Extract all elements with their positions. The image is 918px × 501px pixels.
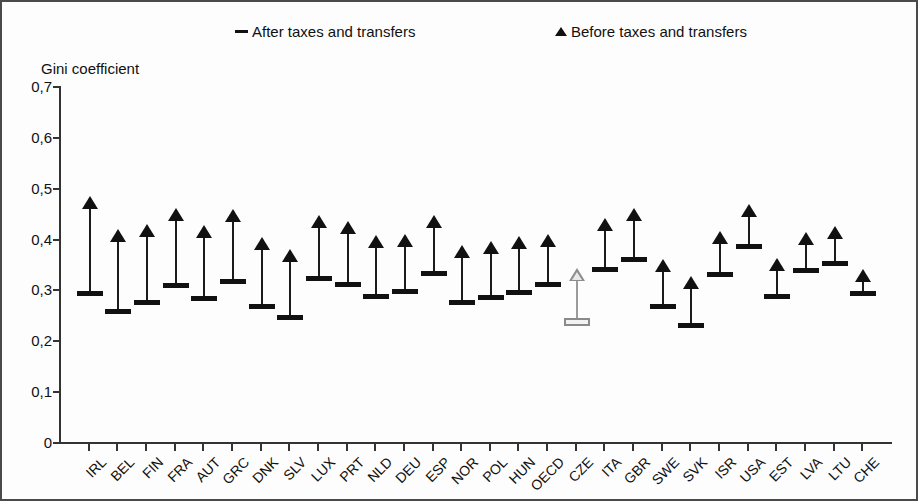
y-axis-tick <box>53 188 61 190</box>
x-axis-tick-label: NLD <box>364 454 395 485</box>
x-axis-tick <box>145 444 147 451</box>
before-taxes-marker <box>110 229 126 242</box>
y-axis-tick-label: 0,3 <box>18 281 52 298</box>
before-taxes-marker <box>225 209 241 222</box>
y-axis-tick <box>53 86 61 88</box>
legend-label-after-taxes: After taxes and transfers <box>252 23 415 40</box>
after-taxes-marker <box>621 257 647 262</box>
x-axis-tick-label: CZE <box>565 454 596 485</box>
x-axis-tick-label: EST <box>766 454 797 485</box>
x-axis-tick-label: NOR <box>448 454 481 487</box>
y-axis-title: Gini coefficient <box>41 60 139 77</box>
y-axis-tick-label: 0,4 <box>18 230 52 247</box>
before-taxes-marker <box>540 234 556 247</box>
x-axis-tick <box>88 444 90 451</box>
x-axis-tick-label: LVA <box>797 454 826 483</box>
x-axis-tick-label: IRL <box>82 454 109 481</box>
y-axis-tick-label: 0,6 <box>18 128 52 145</box>
before-taxes-marker <box>454 245 470 258</box>
after-taxes-marker <box>163 283 189 288</box>
before-taxes-marker <box>855 269 871 282</box>
before-taxes-marker <box>82 196 98 209</box>
dash-marker-icon <box>235 30 248 33</box>
after-taxes-marker <box>306 276 332 281</box>
x-axis-tick-label: CHE <box>850 454 882 486</box>
x-axis-tick <box>116 444 118 451</box>
before-taxes-marker <box>483 241 499 254</box>
x-axis-tick-label: GBR <box>621 454 654 487</box>
x-axis-tick-label: LTU <box>825 454 854 483</box>
x-axis-tick <box>517 444 519 451</box>
after-taxes-marker <box>650 304 676 309</box>
x-axis-tick <box>804 444 806 451</box>
after-taxes-marker <box>277 315 303 320</box>
x-axis-tick <box>775 444 777 451</box>
after-taxes-marker <box>850 291 876 296</box>
x-axis-tick <box>489 444 491 451</box>
x-axis-tick <box>231 444 233 451</box>
after-taxes-marker <box>220 279 246 284</box>
x-axis-tick <box>689 444 691 451</box>
chart-figure: After taxes and transfers Before taxes a… <box>0 0 918 501</box>
before-taxes-marker <box>511 236 527 249</box>
x-axis-tick-label: LUX <box>308 454 339 485</box>
x-axis-tick <box>432 444 434 451</box>
connector-line <box>175 210 177 286</box>
before-taxes-marker <box>626 208 642 221</box>
before-taxes-marker <box>798 232 814 245</box>
x-axis-tick-label: ISR <box>712 454 740 482</box>
before-taxes-marker <box>311 215 327 228</box>
y-axis-tick <box>53 289 61 291</box>
x-axis-tick <box>833 444 835 451</box>
before-taxes-marker <box>655 259 671 272</box>
x-axis-tick <box>718 444 720 451</box>
after-taxes-marker <box>478 295 504 300</box>
before-taxes-marker <box>139 224 155 237</box>
x-axis-tick <box>202 444 204 451</box>
x-axis-tick-label: BEL <box>108 454 138 484</box>
before-taxes-marker <box>282 249 298 262</box>
after-taxes-marker <box>535 282 561 287</box>
y-axis-tick-label: 0,2 <box>18 332 52 349</box>
after-taxes-marker <box>822 261 848 266</box>
x-axis-ticks <box>59 444 892 452</box>
x-axis-tick <box>575 444 577 451</box>
x-axis-tick <box>174 444 176 451</box>
x-axis-tick-label: POL <box>479 454 510 485</box>
legend-item-before-taxes: Before taxes and transfers <box>555 18 747 44</box>
x-axis-tick-label: SWE <box>648 454 682 488</box>
before-taxes-marker <box>569 268 585 281</box>
x-axis-tick <box>460 444 462 451</box>
y-axis-tick-labels: 0,70,60,50,40,30,20,10 <box>10 86 52 442</box>
connector-line <box>117 231 119 310</box>
x-axis-tick-label: GRC <box>219 454 252 487</box>
x-axis-tick <box>861 444 863 451</box>
x-axis-tick-label: USA <box>736 454 768 486</box>
after-taxes-marker <box>707 272 733 277</box>
after-taxes-marker <box>736 244 762 249</box>
after-taxes-marker <box>191 296 217 301</box>
y-axis-tick-label: 0 <box>18 434 52 451</box>
after-taxes-marker <box>678 323 704 328</box>
legend-label-before-taxes: Before taxes and transfers <box>571 23 747 40</box>
before-taxes-marker <box>827 226 843 239</box>
after-taxes-marker <box>793 268 819 273</box>
x-axis-tick <box>603 444 605 451</box>
x-axis-tick-labels: IRLBELFINFRAAUTGRCDNKSLVLUXPRTNLDDEUESPN… <box>59 454 892 501</box>
after-taxes-marker <box>564 318 590 326</box>
before-taxes-marker <box>683 276 699 289</box>
x-axis-tick <box>403 444 405 451</box>
connector-line <box>146 226 148 302</box>
y-axis-tick-label: 0,7 <box>18 78 52 95</box>
after-taxes-marker <box>421 271 447 276</box>
x-axis-tick <box>632 444 634 451</box>
after-taxes-marker <box>134 300 160 305</box>
triangle-inner <box>572 272 582 280</box>
after-taxes-marker <box>449 300 475 305</box>
plot-area <box>59 86 892 444</box>
y-axis-tick <box>53 137 61 139</box>
before-taxes-marker <box>340 221 356 234</box>
x-axis-tick <box>374 444 376 451</box>
x-axis-tick-label: PRT <box>336 454 367 485</box>
x-axis-tick-label: FRA <box>164 454 195 485</box>
